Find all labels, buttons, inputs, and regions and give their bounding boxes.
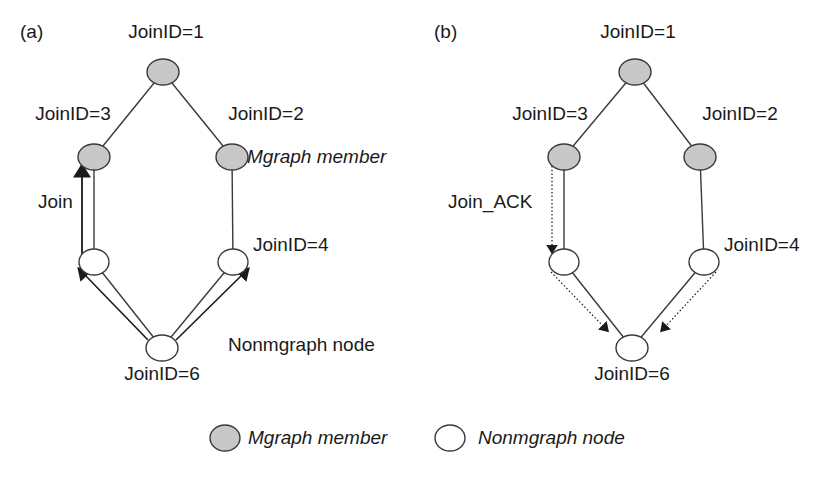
edge-b-right-lright [700,157,704,262]
node-a-nonmgraph-left[interactable] [79,249,109,275]
edge-b-lright-bottom [632,262,704,348]
node-b-joinid-1[interactable] [619,59,651,85]
edge-b-lleft-bottom [564,262,632,348]
arrow-a-join-bottom-to-lright [176,274,243,340]
node-a-joinid-1[interactable] [147,59,179,85]
node-b-joinid-2[interactable] [684,144,716,170]
label-a-joinid-6: JoinID=6 [124,364,200,383]
legend-swatch-mgraph-member [210,425,240,451]
panel-b-ack-arrows [551,166,716,327]
label-b-joinid-6: JoinID=6 [594,364,670,383]
edge-a-right-lright [232,157,233,262]
label-b-joinid-1: JoinID=1 [600,22,676,41]
arrow-a-join-bottom-to-lleft [84,274,148,340]
edge-a-lright-bottom [162,262,233,348]
annotation-a-mgraph-member: Mgraph member [247,147,386,166]
diagram-canvas [0,0,827,481]
annotation-a-nonmgraph-node: Nonmgraph node [228,335,375,354]
panel-b-tag: (b) [434,22,457,41]
legend-swatch-nonmgraph-node [435,425,465,451]
edge-a-lleft-bottom [94,262,162,348]
label-b-join-ack-message: Join_ACK [448,192,533,211]
node-b-joinid-3[interactable] [548,144,580,170]
edge-b-top-right [635,72,700,157]
panel-a-tag: (a) [20,22,43,41]
label-a-join-message: Join [38,192,73,211]
edge-a-top-right [163,72,232,157]
label-a-joinid-4: JoinID=4 [253,235,329,254]
figure-container: (a) (b) JoinID=1 JoinID=3 JoinID=2 JoinI… [0,0,827,481]
node-a-joinid-6[interactable] [146,335,178,361]
label-b-joinid-2: JoinID=2 [702,104,778,123]
legend-label-mgraph-member: Mgraph member [248,428,387,447]
arrow-b-ack-lleft-to-bottom [551,272,604,327]
label-a-joinid-1: JoinID=1 [128,22,204,41]
node-b-joinid-4[interactable] [689,249,719,275]
node-a-joinid-3[interactable] [78,144,110,170]
node-b-joinid-6[interactable] [616,335,648,361]
node-a-joinid-4[interactable] [218,249,248,275]
label-a-joinid-2: JoinID=2 [228,104,304,123]
label-b-joinid-3: JoinID=3 [512,104,588,123]
node-a-joinid-2[interactable] [216,144,248,170]
label-a-joinid-3: JoinID=3 [35,104,111,123]
label-b-joinid-4: JoinID=4 [724,235,800,254]
node-b-nonmgraph-left[interactable] [549,249,579,275]
legend-label-nonmgraph-node: Nonmgraph node [478,428,625,447]
